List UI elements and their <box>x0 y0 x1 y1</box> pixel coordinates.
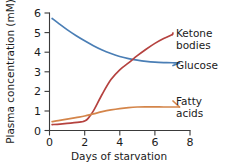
x-axis-ticks <box>50 131 191 136</box>
x-axis-title: Days of starvation <box>71 150 167 162</box>
x-tick-label-0: 0 <box>46 136 53 149</box>
legend-label-glucose: Glucose <box>176 59 218 71</box>
legend-label-ketone-bodies-line2: bodies <box>176 39 211 51</box>
x-tick-label-4: 4 <box>116 136 123 149</box>
x-tick-label-2: 2 <box>81 136 88 149</box>
series-line-ketone-bodies <box>52 35 172 125</box>
legend-label-ketone-bodies-line1: Ketone <box>176 27 212 39</box>
plot-area: 0 1 2 3 4 5 6 0 2 4 6 8 Days of starvati… <box>0 0 229 165</box>
x-tick-label-6: 6 <box>151 136 158 149</box>
series-line-fatty-acids <box>52 107 179 122</box>
y-tick-label-2: 2 <box>34 85 41 98</box>
y-tick-label-0: 0 <box>34 125 41 138</box>
y-axis-ticks <box>45 13 50 131</box>
series-curves <box>52 18 179 124</box>
y-tick-label-5: 5 <box>34 27 41 40</box>
y-tick-label-1: 1 <box>34 105 41 118</box>
legend-label-fatty-acids-line1: Fatty <box>176 95 202 107</box>
legend-label-fatty-acids-line2: acids <box>176 107 203 119</box>
y-tick-labels: 0 1 2 3 4 5 6 <box>34 7 41 138</box>
chart-container: 0 1 2 3 4 5 6 0 2 4 6 8 Days of starvati… <box>0 0 229 165</box>
leader-line-ketone-bodies <box>172 33 173 35</box>
y-tick-label-6: 6 <box>34 7 41 20</box>
legend-labels: Ketone bodies Glucose Fatty acids <box>176 27 218 119</box>
y-tick-label-4: 4 <box>34 46 41 59</box>
y-tick-label-3: 3 <box>34 66 41 79</box>
x-tick-label-8: 8 <box>187 136 194 149</box>
y-axis-title: Plasma concentration (mM) <box>4 0 16 144</box>
x-tick-labels: 0 2 4 6 8 <box>46 136 194 149</box>
